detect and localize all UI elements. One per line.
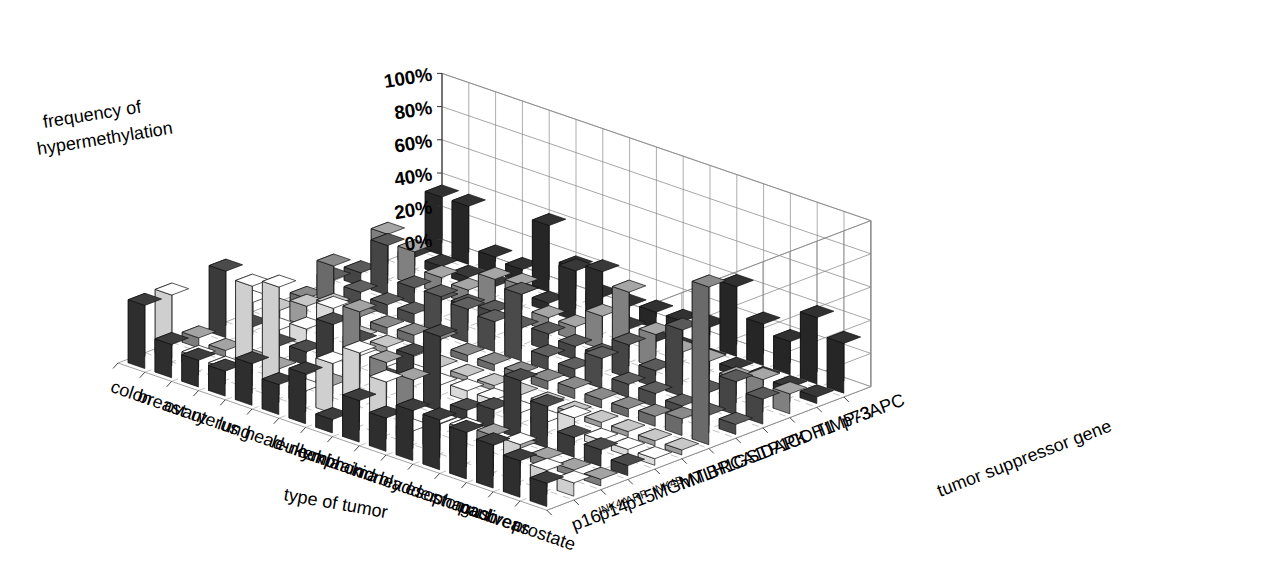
bar-face-front (774, 336, 791, 375)
value-tick-label-100%: 100% (382, 64, 433, 92)
category-tick-8 (327, 437, 332, 443)
bar-face-front (343, 395, 360, 442)
bar-face-front (450, 427, 467, 479)
value-tick-label-80%: 80% (393, 97, 434, 124)
bar-face-front (586, 311, 603, 350)
category-tick-7 (301, 427, 306, 433)
bar-face-front (827, 338, 844, 394)
bar-face-front (503, 455, 520, 497)
bar-face-front (477, 439, 494, 488)
value-tick-label-60%: 60% (393, 130, 434, 157)
category-tick-12 (435, 473, 440, 479)
bar-face-front (452, 201, 469, 265)
bar-face-front (396, 405, 413, 461)
category-label-prostate: prostate (510, 514, 578, 554)
series-tick-9 (790, 418, 795, 423)
bar-face-front (155, 339, 172, 378)
series-tick-3 (628, 479, 633, 484)
category-tick-14 (488, 492, 493, 498)
series-label-APC: APC (866, 390, 908, 422)
category-tick-0 (113, 363, 118, 369)
bar-face-front (451, 304, 468, 343)
bar-face-front (235, 358, 252, 405)
bar-face-front (209, 266, 226, 338)
category-tick-6 (274, 418, 279, 424)
chart-canvas: 0%20%40%60%80%100%frequency ofhypermethy… (0, 0, 1280, 572)
bar-face-front (612, 339, 629, 378)
bar-face-front (289, 368, 306, 424)
category-tick-11 (408, 464, 413, 470)
series-tick-1 (574, 500, 579, 505)
bar-face-front (747, 318, 764, 365)
category-tick-1 (140, 372, 145, 378)
series-tick-2 (601, 490, 606, 495)
category-tick-4 (220, 400, 225, 406)
bar-face-front (262, 379, 279, 415)
series-tick-6 (709, 448, 714, 453)
bar-face-front (128, 300, 145, 369)
three-d-bar-chart: 0%20%40%60%80%100%frequency ofhypermethy… (0, 0, 1280, 572)
category-tick-3 (193, 391, 198, 397)
bar-face-front (423, 414, 440, 470)
category-tick-5 (247, 409, 252, 415)
bar-face-front (692, 281, 709, 444)
category-axis-title: type of tumor (282, 484, 389, 522)
bar-face-front (720, 281, 737, 356)
bar-face-front (369, 412, 386, 451)
series-tick-0 (547, 510, 552, 515)
series-tick-10 (817, 407, 822, 412)
bar-face-front (478, 316, 495, 352)
series-tick-11 (844, 397, 849, 402)
bar-face-front (800, 312, 817, 384)
value-tick-label-0%: 0% (403, 230, 434, 255)
bar-face-front (505, 289, 522, 361)
category-tick-15 (515, 501, 520, 507)
series-tick-4 (655, 469, 660, 474)
series-tick-8 (763, 428, 768, 433)
series-axis-title: tumor suppressor gene (934, 416, 1114, 501)
category-tick-10 (381, 455, 386, 461)
series-tick-5 (682, 459, 687, 464)
category-tick-2 (167, 381, 172, 387)
category-tick-9 (354, 446, 359, 452)
value-tick-label-40%: 40% (393, 163, 434, 190)
bar-face-front (424, 331, 441, 411)
bar-face-front (532, 220, 549, 292)
series-tick-7 (736, 438, 741, 443)
category-tick-13 (461, 483, 466, 489)
